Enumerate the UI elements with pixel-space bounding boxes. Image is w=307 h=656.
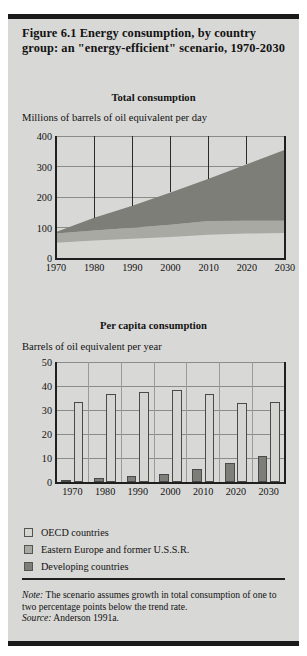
y-axis-line [55,362,57,482]
chart1-ylabel: Millions of barrels of oil equivalent pe… [22,112,207,123]
figure-title: Figure 6.1 Energy consumption, by countr… [22,26,287,55]
y-axis-tick-label: 20 [42,429,52,440]
source-label: Source: [22,612,51,623]
vertical-gridline [94,136,95,218]
y-axis-tick-label: 10 [42,453,52,464]
y-axis-tick-label: 200 [37,192,52,203]
vertical-gridline [208,136,209,179]
x-axis-tick-label: 2010 [193,486,213,497]
legend-item-1: Eastern Europe and former U.S.S.R. [24,541,189,558]
x-axis-tick-label: 1990 [128,486,148,497]
bar-oecd [205,394,215,482]
legend-swatch-0 [24,528,33,537]
category-separator [186,362,187,482]
bar-oecd [74,402,84,482]
bar-developing [258,456,268,482]
vertical-gridline [170,136,171,192]
chart1-title: Total consumption [8,92,299,103]
category-separator [121,362,122,482]
y-axis-tick-label: 50 [42,357,52,368]
y-axis-tick-label: 40 [42,381,52,392]
vertical-gridline [132,136,133,206]
legend-label-2: Developing countries [41,561,128,572]
category-separator [252,362,253,482]
x-axis-tick-label: 2030 [258,486,278,497]
y-axis-tick-label: 0 [47,477,52,488]
note-text: The scenario assumes growth in total con… [22,589,277,612]
figure-page: Figure 6.1 Energy consumption, by countr… [0,0,307,656]
y-axis-line [55,136,57,258]
y-axis-tick-label: 300 [37,161,52,172]
right-axis-line [284,136,286,258]
legend-swatch-2 [24,562,33,571]
gridline [56,362,285,363]
bar-developing [159,474,169,482]
vertical-gridline [246,136,247,164]
x-axis-tick-label: 2000 [160,486,180,497]
bar-developing [225,463,235,482]
category-separator [219,362,220,482]
total-consumption-chart: 4003002001000197019801990200020102020203… [56,136,285,258]
bar-developing [192,469,202,482]
figure-note: Note: The scenario assumes growth in tot… [22,589,290,624]
category-separator [88,362,89,482]
chart2-title: Per capita consumption [8,320,299,331]
legend-label-0: OECD countries [41,527,109,538]
bar-oecd [270,402,280,482]
chart2-ylabel: Barrels of oil equivalent per year [22,341,162,352]
x-axis-tick-label: 1970 [46,262,66,273]
x-axis-tick-label: 2010 [198,262,218,273]
legend-label-1: Eastern Europe and former U.S.S.R. [41,544,189,555]
legend-item-0: OECD countries [24,524,189,541]
source-text: Anderson 1991a. [53,612,119,623]
x-axis-tick-label: 1980 [95,486,115,497]
y-axis-tick-label: 400 [37,131,52,142]
category-separator [154,362,155,482]
top-rule [8,14,299,19]
x-axis-line [55,482,286,484]
x-axis-tick-label: 2020 [226,486,246,497]
bottom-rule [8,641,299,646]
x-axis-tick-label: 2020 [237,262,257,273]
bar-oecd [237,403,247,482]
legend-item-2: Developing countries [24,558,189,575]
gridline [56,434,285,435]
bar-oecd [106,394,116,482]
gridline [56,458,285,459]
note-label: Note: [22,589,43,600]
bar-oecd [139,392,149,482]
x-axis-tick-label: 2000 [160,262,180,273]
legend-swatch-1 [24,545,33,554]
note-separator [22,578,285,580]
gridline [56,410,285,411]
gridline [56,386,285,387]
x-axis-line [55,258,286,260]
y-axis-tick-label: 100 [37,222,52,233]
x-axis-tick-label: 1980 [84,262,104,273]
x-axis-tick-label: 1970 [62,486,82,497]
chart-legend: OECD countriesEastern Europe and former … [24,524,189,575]
y-axis-tick-label: 30 [42,405,52,416]
per-capita-consumption-chart: 504030201001970198019902000201020202030 [56,362,285,482]
x-axis-tick-label: 2030 [275,262,295,273]
x-axis-tick-label: 1990 [122,262,142,273]
bar-oecd [172,390,182,482]
right-axis-line [284,362,286,482]
